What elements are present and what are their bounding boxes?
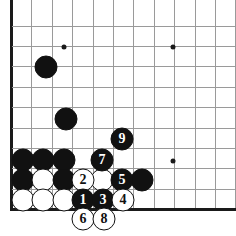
black-stone-row-b7[interactable] — [131, 169, 154, 192]
stone-move-number: 8 — [101, 212, 108, 226]
grid-line-vertical — [215, 0, 216, 210]
stone-move-number: 4 — [120, 193, 127, 207]
stone-move-number: 7 — [99, 153, 106, 167]
grid-line-horizontal — [12, 107, 236, 108]
black-stone-mid-left[interactable] — [55, 108, 78, 131]
stone-move-number: 1 — [80, 193, 87, 207]
stone-move-number: 6 — [80, 212, 87, 226]
grid-line-vertical — [235, 0, 236, 210]
move-stone-9[interactable]: 9 — [111, 128, 134, 151]
grid-line-vertical — [154, 0, 155, 210]
stone-move-number: 3 — [100, 193, 107, 207]
star-point-upper-right — [171, 45, 176, 50]
grid-line-vertical — [195, 0, 196, 210]
star-point-upper-left — [62, 45, 67, 50]
move-stone-8[interactable]: 8 — [93, 208, 116, 231]
stone-move-number: 2 — [80, 173, 87, 187]
move-stone-7[interactable]: 7 — [91, 149, 114, 172]
go-board: 792513468 — [0, 0, 236, 236]
move-stone-6[interactable]: 6 — [72, 208, 95, 231]
grid-line-vertical — [174, 0, 175, 210]
grid-line-horizontal — [12, 87, 236, 88]
black-stone-upper-left[interactable] — [35, 56, 58, 79]
star-point-lower-right — [171, 159, 176, 164]
move-stone-4[interactable]: 4 — [112, 189, 135, 212]
stone-move-number: 9 — [119, 132, 126, 146]
grid-line-horizontal — [12, 26, 236, 27]
grid-line-horizontal — [12, 46, 236, 47]
stone-move-number: 5 — [119, 173, 126, 187]
white-stone-row-c2[interactable] — [32, 189, 55, 212]
